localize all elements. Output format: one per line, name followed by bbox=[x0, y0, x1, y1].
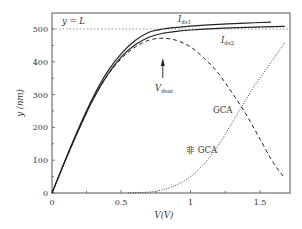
y-tick-100: 100 bbox=[33, 156, 48, 165]
non-gca-label: 非 GCA bbox=[186, 145, 218, 155]
x-tick-0: 0 bbox=[49, 198, 54, 207]
y-tick-200: 200 bbox=[33, 123, 48, 132]
x-tick-1: 1 bbox=[188, 198, 193, 207]
y-tick-labels: 0 100 200 300 400 500 bbox=[33, 25, 48, 198]
plot-frame bbox=[52, 13, 290, 193]
ids1-label: Ids1 bbox=[177, 14, 191, 25]
chart: 0 100 200 300 400 500 0 0.5 1 1.5 V(V) y… bbox=[0, 0, 302, 229]
y-tick-300: 300 bbox=[33, 91, 48, 100]
vdsat-arrow bbox=[161, 58, 165, 78]
x-tick-1.5: 1.5 bbox=[254, 198, 267, 207]
y-tick-0: 0 bbox=[43, 189, 48, 198]
ids2-label: Ids2 bbox=[220, 35, 234, 46]
series-i-ds1-line bbox=[52, 22, 271, 193]
y-tick-500: 500 bbox=[33, 25, 48, 34]
series-gca-line bbox=[128, 42, 285, 193]
x-tick-0.5: 0.5 bbox=[115, 198, 128, 207]
x-tick-labels: 0 0.5 1 1.5 bbox=[49, 198, 266, 207]
ref-line-label: y = L bbox=[61, 16, 85, 26]
series-gca-line bbox=[52, 38, 285, 193]
vdsat-label: Vdsat bbox=[155, 83, 174, 94]
gca-label: GCA bbox=[213, 105, 233, 115]
y-axis-label: y (nm) bbox=[15, 89, 25, 118]
x-axis-label: V(V) bbox=[155, 210, 174, 220]
y-tick-400: 400 bbox=[33, 58, 48, 67]
curves bbox=[52, 22, 285, 193]
